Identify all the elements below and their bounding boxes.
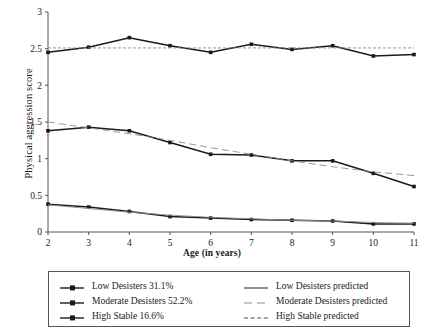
data-point-marker bbox=[412, 222, 416, 226]
legend-observed-column: Low Desisters 31.1% Moderate Desisters 5… bbox=[49, 272, 229, 326]
chart-figure: Physical aggression score Age (in years)… bbox=[0, 0, 424, 335]
y-tick-label: 1 bbox=[37, 154, 42, 164]
x-tick-label: 4 bbox=[127, 238, 132, 248]
series-layer bbox=[46, 36, 416, 226]
legend-item-low-desisters-predicted[interactable]: Low Desisters predicted bbox=[243, 278, 409, 293]
legend-label: Moderate Desisters predicted bbox=[276, 295, 387, 307]
data-point-marker bbox=[87, 125, 91, 129]
line-chart-plot: 00.511.522.53234567891011 bbox=[0, 0, 424, 268]
x-tick-label: 3 bbox=[86, 238, 91, 248]
legend-label: High Stable 16.6% bbox=[92, 310, 164, 322]
legend-label: Moderate Desisters 52.2% bbox=[92, 295, 193, 307]
x-tick-label: 7 bbox=[249, 238, 254, 248]
series-line-low-desisters-predicted bbox=[48, 205, 414, 223]
series-line-moderate-desisters-52-2 bbox=[48, 127, 414, 186]
series-line-low-desisters-31-1 bbox=[48, 204, 414, 224]
x-tick-label: 6 bbox=[208, 238, 213, 248]
data-point-marker bbox=[412, 53, 416, 57]
x-tick-label: 11 bbox=[409, 238, 418, 248]
data-point-marker bbox=[372, 54, 376, 58]
y-tick-label: 2 bbox=[37, 81, 42, 91]
y-tick-label: 1.5 bbox=[30, 117, 42, 127]
x-tick-label: 8 bbox=[290, 238, 295, 248]
data-point-marker bbox=[46, 51, 50, 55]
x-tick-label: 10 bbox=[369, 238, 379, 248]
data-point-marker bbox=[168, 44, 172, 48]
data-point-marker bbox=[209, 216, 213, 220]
legend-item-moderate-desisters[interactable]: Moderate Desisters 52.2% bbox=[59, 293, 229, 308]
axes-layer bbox=[45, 12, 414, 235]
data-point-marker bbox=[412, 185, 416, 189]
data-point-marker bbox=[46, 129, 50, 133]
legend-label: Low Desisters 31.1% bbox=[92, 280, 174, 292]
series-line-moderate-desisters-predicted bbox=[48, 122, 414, 176]
line-marker-key-icon bbox=[59, 295, 85, 307]
data-point-marker bbox=[209, 51, 213, 55]
y-tick-label: 0.5 bbox=[30, 191, 42, 201]
legend-predicted-column: Low Desisters predicted Moderate Desiste… bbox=[229, 272, 409, 326]
data-point-marker bbox=[331, 44, 335, 48]
legend-label: Low Desisters predicted bbox=[276, 280, 368, 292]
long-dash-line-key-icon bbox=[243, 295, 269, 307]
legend-label: High Stable predicted bbox=[276, 310, 359, 322]
short-dash-line-key-icon bbox=[243, 310, 269, 322]
legend-item-low-desisters[interactable]: Low Desisters 31.1% bbox=[59, 278, 229, 293]
y-tick-label: 2.5 bbox=[30, 44, 42, 54]
data-point-marker bbox=[250, 218, 254, 222]
series-line-high-stable-16-6 bbox=[48, 38, 414, 56]
data-point-marker bbox=[331, 159, 335, 163]
line-marker-key-icon bbox=[59, 310, 85, 322]
legend-item-high-stable-predicted[interactable]: High Stable predicted bbox=[243, 308, 409, 323]
chart-legend: Low Desisters 31.1% Moderate Desisters 5… bbox=[48, 271, 410, 327]
x-tick-label: 9 bbox=[330, 238, 335, 248]
y-tick-label: 0 bbox=[37, 227, 42, 237]
y-tick-label: 3 bbox=[37, 7, 42, 17]
data-point-marker bbox=[250, 42, 254, 46]
x-tick-label: 5 bbox=[168, 238, 173, 248]
legend-item-moderate-desisters-predicted[interactable]: Moderate Desisters predicted bbox=[243, 293, 409, 308]
data-point-marker bbox=[209, 152, 213, 156]
solid-line-key-icon bbox=[243, 280, 269, 292]
x-tick-label: 2 bbox=[46, 238, 51, 248]
line-marker-key-icon bbox=[59, 280, 85, 292]
data-point-marker bbox=[128, 36, 132, 40]
data-point-marker bbox=[87, 45, 91, 49]
data-point-marker bbox=[168, 141, 172, 145]
legend-item-high-stable[interactable]: High Stable 16.6% bbox=[59, 308, 229, 323]
data-point-marker bbox=[128, 129, 132, 133]
